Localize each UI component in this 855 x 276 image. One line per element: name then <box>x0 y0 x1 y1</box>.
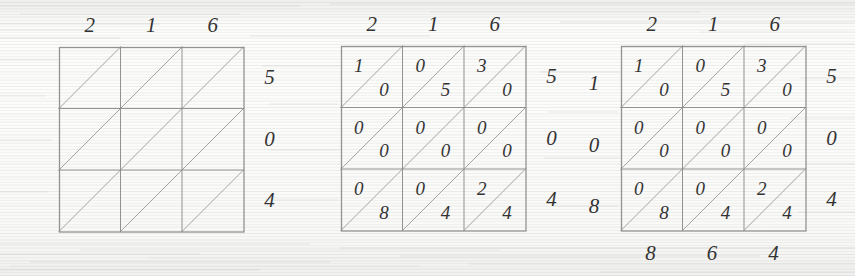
top-label-digit: 1 <box>702 14 724 35</box>
cell-units-digit: 0 <box>374 80 394 99</box>
cell-tens-digit: 1 <box>349 56 369 75</box>
cell-tens-digit: 2 <box>472 179 492 198</box>
cell-tens-digit: 1 <box>629 56 649 75</box>
top-label-digit: 6 <box>764 14 786 35</box>
cell-units-digit: 4 <box>436 203 456 222</box>
bottom-label-digit: 8 <box>640 243 662 264</box>
top-label-digit: 1 <box>422 14 444 35</box>
right-label-digit: 0 <box>259 129 281 150</box>
top-label-digit: 2 <box>79 15 101 36</box>
left-label-digit: 8 <box>583 196 605 217</box>
cell-tens-digit: 3 <box>752 56 772 75</box>
cell-units-digit: 4 <box>716 203 736 222</box>
right-label-digit: 0 <box>541 128 563 149</box>
cell-units-digit: 0 <box>654 80 674 99</box>
right-label-digit: 4 <box>259 190 281 211</box>
cell-units-digit: 5 <box>436 80 456 99</box>
cell-tens-digit: 3 <box>472 56 492 75</box>
bottom-label-digit: 6 <box>701 243 723 264</box>
top-label-digit: 2 <box>641 14 663 35</box>
cell-tens-digit: 0 <box>690 56 710 75</box>
right-label-digit: 4 <box>821 189 843 210</box>
cell-tens-digit: 0 <box>690 118 710 137</box>
cell-tens-digit: 0 <box>629 118 649 137</box>
cell-tens-digit: 2 <box>752 179 772 198</box>
cell-units-digit: 0 <box>654 141 674 160</box>
top-label-digit: 6 <box>202 15 224 36</box>
top-label-digit: 1 <box>140 15 162 36</box>
cell-tens-digit: 0 <box>349 179 369 198</box>
cell-units-digit: 0 <box>716 141 736 160</box>
cell-tens-digit: 0 <box>629 179 649 198</box>
cell-tens-digit: 0 <box>410 179 430 198</box>
left-label-digit: 1 <box>583 73 605 94</box>
cell-tens-digit: 0 <box>752 118 772 137</box>
cell-units-digit: 0 <box>436 141 456 160</box>
top-label-digit: 6 <box>484 14 506 35</box>
cell-tens-digit: 0 <box>410 56 430 75</box>
top-label-digit: 2 <box>361 14 383 35</box>
summed-lattice-panel: 100530000000080424216504108864 <box>621 46 806 231</box>
cell-units-digit: 0 <box>497 141 517 160</box>
bottom-label-digit: 4 <box>763 243 785 264</box>
cell-tens-digit: 0 <box>410 118 430 137</box>
cell-units-digit: 0 <box>777 80 797 99</box>
cell-units-digit: 0 <box>374 141 394 160</box>
empty-lattice-grid <box>59 47 246 234</box>
cell-units-digit: 5 <box>716 80 736 99</box>
cell-units-digit: 4 <box>497 203 517 222</box>
left-label-digit: 0 <box>583 135 605 156</box>
right-label-digit: 5 <box>541 66 563 87</box>
cell-units-digit: 4 <box>777 203 797 222</box>
right-label-digit: 5 <box>259 67 281 88</box>
cell-tens-digit: 0 <box>349 118 369 137</box>
cell-units-digit: 0 <box>777 141 797 160</box>
cell-units-digit: 8 <box>374 203 394 222</box>
empty-lattice-panel: 216504 <box>59 47 244 232</box>
cell-tens-digit: 0 <box>472 118 492 137</box>
right-label-digit: 0 <box>821 128 843 149</box>
cell-units-digit: 8 <box>654 203 674 222</box>
filled-lattice-panel: 100530000000080424216504 <box>341 46 526 231</box>
right-label-digit: 4 <box>541 189 563 210</box>
cell-tens-digit: 0 <box>690 179 710 198</box>
right-label-digit: 5 <box>821 66 843 87</box>
cell-units-digit: 0 <box>497 80 517 99</box>
